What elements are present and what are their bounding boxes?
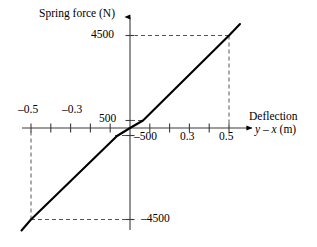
x-axis-title-line1: Deflection bbox=[249, 110, 298, 122]
x-tick-label-03: 0.3 bbox=[180, 130, 194, 143]
x-axis-minus: – bbox=[260, 123, 272, 135]
x-tick-label-neg05: –0.5 bbox=[18, 103, 38, 116]
y-tick-label-500: 500 bbox=[99, 112, 116, 125]
x-axis-unit: (m) bbox=[277, 123, 296, 135]
x-tick-label-neg03: –0.3 bbox=[62, 103, 82, 116]
y-tick-label-neg4500: –4500 bbox=[141, 212, 170, 225]
x-axis-title: Deflection y – x (m) bbox=[249, 110, 298, 136]
y-tick-label-neg500: –500 bbox=[134, 130, 157, 143]
x-tick-label-05: 0.5 bbox=[219, 130, 233, 143]
spring-force-deflection-chart: Spring force (N) Deflection y – x (m) 45… bbox=[0, 0, 317, 247]
spring-force-curve bbox=[22, 24, 241, 231]
y-tick-label-4500: 4500 bbox=[91, 28, 114, 41]
x-axis-title-line2: y – x (m) bbox=[255, 123, 298, 136]
y-axis-title: Spring force (N) bbox=[39, 7, 115, 20]
